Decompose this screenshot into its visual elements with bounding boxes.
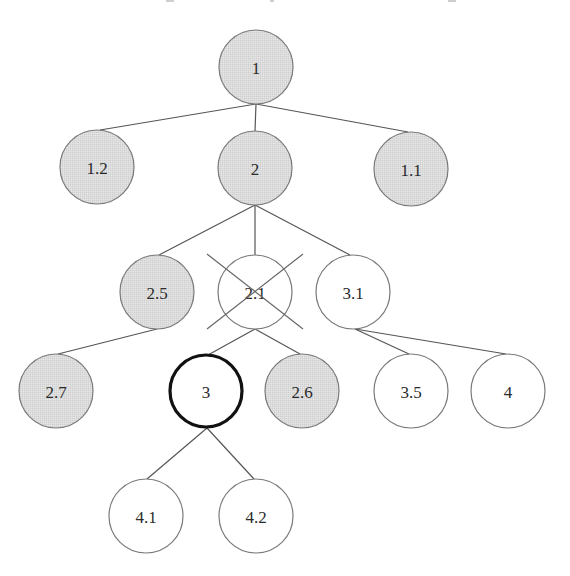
edge-2-1-to-2-6 bbox=[255, 329, 300, 354]
tree-node-4-1: 4.1 bbox=[109, 479, 183, 553]
tree-node-3: 3 bbox=[170, 355, 242, 427]
tree-node-1: 1 bbox=[219, 30, 293, 104]
node-label: 4 bbox=[504, 383, 513, 402]
tree-node-1-1: 1.1 bbox=[374, 132, 448, 206]
clipped-top-fragments bbox=[166, 0, 456, 2]
tree-node-2-6: 2.6 bbox=[265, 354, 339, 428]
node-label: 1 bbox=[252, 59, 261, 78]
edge-1-to-1-2 bbox=[100, 104, 256, 130]
node-label: 3.1 bbox=[342, 284, 363, 303]
edge-3-to-4-2 bbox=[207, 428, 254, 479]
node-label: 2.6 bbox=[291, 383, 312, 402]
tree-node-1-2: 1.2 bbox=[60, 130, 134, 204]
node-label: 2 bbox=[251, 160, 260, 179]
edge-2-to-3-1 bbox=[255, 205, 350, 255]
tree-node-2-5: 2.5 bbox=[120, 255, 194, 329]
edge-3-1-to-3-5 bbox=[355, 329, 409, 354]
tree-node-4-2: 4.2 bbox=[219, 479, 293, 553]
edge-2-to-2-5 bbox=[159, 205, 255, 255]
edge-1-to-2 bbox=[255, 104, 256, 131]
node-label: 4.1 bbox=[135, 508, 156, 527]
edge-1-to-1-1 bbox=[256, 104, 408, 132]
node-label: 3 bbox=[202, 383, 211, 402]
node-label: 2.7 bbox=[45, 383, 67, 402]
edge-3-to-4-1 bbox=[147, 428, 207, 479]
node-label: 2.5 bbox=[146, 284, 167, 303]
tree-diagram: 11.221.12.52.13.12.732.63.544.14.2 bbox=[0, 0, 570, 576]
node-label: 1.2 bbox=[86, 159, 107, 178]
edge-2-1-to-3 bbox=[208, 329, 255, 355]
tree-node-3-1: 3.1 bbox=[316, 255, 390, 329]
tree-node-3-5: 3.5 bbox=[374, 354, 448, 428]
tree-node-4: 4 bbox=[471, 354, 545, 428]
edge-3-1-to-4 bbox=[355, 329, 506, 354]
tree-node-2-7: 2.7 bbox=[19, 354, 93, 428]
node-label: 3.5 bbox=[400, 383, 421, 402]
edge-2-5-to-2-7 bbox=[58, 329, 157, 354]
tree-node-2: 2 bbox=[218, 131, 292, 205]
node-label: 1.1 bbox=[400, 161, 421, 180]
node-label: 4.2 bbox=[245, 508, 266, 527]
